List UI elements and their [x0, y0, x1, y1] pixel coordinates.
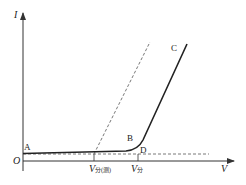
point-label-d: D: [140, 146, 147, 155]
point-label-c: C: [171, 44, 177, 53]
tick-label-sub: 分(测): [95, 167, 111, 173]
point-label-b: B: [127, 134, 133, 143]
origin-label: O: [13, 156, 20, 166]
y-axis-label: I: [14, 10, 17, 20]
dashed-extrapolation: [94, 42, 150, 154]
iv-diagram: I V O A B C D V分(测) V分: [0, 0, 246, 185]
iv-curve: [23, 44, 187, 154]
diagram-svg: [0, 0, 246, 185]
x-axis-label: V: [221, 164, 227, 174]
point-label-a: A: [24, 143, 31, 152]
tick-label-sub: 分: [137, 167, 143, 173]
tick-label-v-threshold-extrapolated: V分(测): [89, 164, 111, 174]
tick-label-v-threshold: V分: [131, 164, 143, 174]
